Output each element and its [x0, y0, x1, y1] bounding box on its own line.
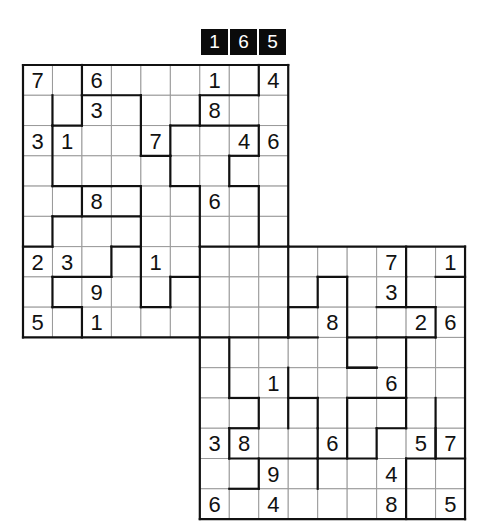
cell[interactable] [23, 156, 52, 186]
cell[interactable] [406, 489, 435, 519]
cell[interactable] [141, 186, 170, 216]
cell[interactable] [288, 307, 317, 337]
cell[interactable] [318, 459, 347, 489]
cell[interactable] [111, 307, 140, 337]
cell[interactable] [318, 368, 347, 398]
cell[interactable] [170, 186, 199, 216]
cell[interactable] [200, 247, 229, 277]
cell[interactable] [200, 368, 229, 398]
cell[interactable] [141, 95, 170, 125]
cell[interactable] [229, 459, 258, 489]
cell[interactable] [259, 216, 288, 246]
cell[interactable] [23, 186, 52, 216]
cell[interactable] [436, 277, 465, 307]
cell[interactable] [259, 307, 288, 337]
cell[interactable] [406, 459, 435, 489]
cell[interactable] [259, 428, 288, 458]
cell[interactable] [170, 277, 199, 307]
cell[interactable] [288, 489, 317, 519]
cell[interactable] [406, 398, 435, 428]
cell[interactable] [377, 337, 406, 367]
cell[interactable] [229, 216, 258, 246]
cell[interactable] [406, 277, 435, 307]
cell[interactable] [200, 277, 229, 307]
cell[interactable] [377, 398, 406, 428]
cell[interactable] [141, 307, 170, 337]
cell[interactable] [141, 156, 170, 186]
cell[interactable] [288, 247, 317, 277]
cell[interactable] [229, 368, 258, 398]
cell[interactable] [259, 186, 288, 216]
cell[interactable] [200, 307, 229, 337]
cell[interactable] [229, 337, 258, 367]
cell[interactable] [259, 277, 288, 307]
cell[interactable] [170, 216, 199, 246]
cell[interactable] [229, 247, 258, 277]
cell[interactable] [229, 65, 258, 95]
cell[interactable] [229, 277, 258, 307]
cell[interactable] [52, 186, 81, 216]
cell[interactable] [170, 247, 199, 277]
cell[interactable] [200, 337, 229, 367]
cell[interactable] [288, 277, 317, 307]
cell[interactable] [52, 65, 81, 95]
cell[interactable] [259, 337, 288, 367]
cell[interactable] [288, 398, 317, 428]
cell[interactable] [111, 95, 140, 125]
cell[interactable] [318, 277, 347, 307]
cell[interactable] [111, 216, 140, 246]
cell[interactable] [347, 307, 376, 337]
cell[interactable] [141, 65, 170, 95]
cell[interactable] [259, 95, 288, 125]
cell[interactable] [200, 216, 229, 246]
cell[interactable] [436, 459, 465, 489]
cell[interactable] [347, 428, 376, 458]
cell[interactable] [288, 428, 317, 458]
cell[interactable] [377, 428, 406, 458]
cell[interactable] [259, 247, 288, 277]
cell[interactable] [170, 156, 199, 186]
cell[interactable] [406, 247, 435, 277]
cell[interactable] [436, 368, 465, 398]
cell[interactable] [318, 337, 347, 367]
cell[interactable] [347, 337, 376, 367]
cell[interactable] [200, 398, 229, 428]
cell[interactable] [200, 156, 229, 186]
cell[interactable] [347, 277, 376, 307]
cell[interactable] [259, 156, 288, 186]
cell[interactable] [229, 95, 258, 125]
cell[interactable] [170, 65, 199, 95]
cell[interactable] [406, 368, 435, 398]
cell[interactable] [23, 95, 52, 125]
cell[interactable] [82, 156, 111, 186]
cell[interactable] [347, 247, 376, 277]
cell[interactable] [229, 489, 258, 519]
cell[interactable] [229, 156, 258, 186]
cell[interactable] [259, 398, 288, 428]
cell[interactable] [200, 126, 229, 156]
cell[interactable] [318, 398, 347, 428]
cell[interactable] [82, 216, 111, 246]
cell[interactable] [347, 368, 376, 398]
cell[interactable] [52, 307, 81, 337]
cell[interactable] [170, 307, 199, 337]
cell[interactable] [111, 186, 140, 216]
cell[interactable] [288, 337, 317, 367]
cell[interactable] [347, 459, 376, 489]
cell[interactable] [436, 337, 465, 367]
cell[interactable] [377, 307, 406, 337]
cell[interactable] [111, 156, 140, 186]
cell[interactable] [406, 337, 435, 367]
cell[interactable] [229, 186, 258, 216]
cell[interactable] [52, 277, 81, 307]
cell[interactable] [318, 489, 347, 519]
cell[interactable] [111, 65, 140, 95]
cell[interactable] [52, 95, 81, 125]
cell[interactable] [229, 398, 258, 428]
cell[interactable] [23, 216, 52, 246]
cell[interactable] [82, 247, 111, 277]
cell[interactable] [141, 277, 170, 307]
cell[interactable] [52, 156, 81, 186]
cell[interactable] [111, 126, 140, 156]
cell[interactable] [288, 459, 317, 489]
